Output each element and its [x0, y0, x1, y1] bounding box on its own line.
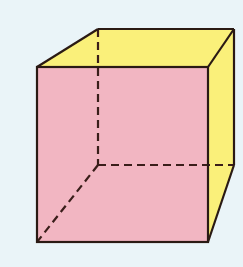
- cube-diagram: [0, 0, 243, 267]
- front-face: [37, 67, 208, 242]
